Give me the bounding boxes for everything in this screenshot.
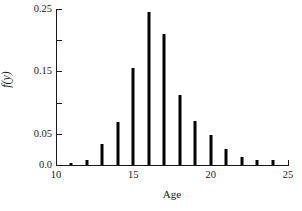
x-axis-tick [56, 160, 57, 166]
x-axis-tick-label: 25 [283, 168, 294, 181]
y-axis-tick-label: 0.25 [34, 2, 52, 15]
bar [194, 121, 197, 165]
x-axis-tick [288, 160, 289, 166]
y-axis-line [56, 9, 57, 166]
bar [85, 160, 88, 165]
bar [240, 157, 243, 165]
bar [132, 68, 135, 165]
y-axis-tick [57, 103, 62, 104]
density-plot-figure: ˆf(y) 0.250.150.050.0 10152025 Age [0, 0, 302, 211]
y-axis-tick [57, 40, 62, 41]
bar [116, 122, 119, 165]
y-axis-label: ˆf(y) [0, 56, 14, 104]
y-axis-tick: 0.25 [57, 9, 62, 10]
y-axis-tick-label: 0.15 [34, 64, 52, 77]
plot-area: 0.250.150.050.0 10152025 [56, 9, 288, 166]
bar [209, 135, 212, 165]
x-axis-tick-label: 20 [205, 168, 216, 181]
x-axis-tick-label: 15 [128, 168, 139, 181]
y-axis-tick: 0.15 [57, 71, 62, 72]
bar [70, 163, 73, 165]
y-axis-tick: 0.05 [57, 134, 62, 135]
bar [163, 34, 166, 165]
bar [271, 160, 274, 165]
x-axis-line [56, 165, 288, 166]
x-axis-tick-label: 10 [51, 168, 62, 181]
bar [225, 149, 228, 165]
y-axis-tick: 0.0 [57, 165, 62, 166]
y-axis-label-symbol: ˆf [0, 85, 14, 88]
bar [256, 160, 259, 165]
bar [178, 95, 181, 165]
y-axis-label-base: f [0, 85, 13, 88]
y-axis-tick-label: 0.05 [34, 127, 52, 140]
bar [147, 12, 150, 165]
y-axis-label-suffix: (y) [0, 71, 13, 84]
bar [101, 144, 104, 165]
x-axis-label: Age [56, 188, 288, 200]
